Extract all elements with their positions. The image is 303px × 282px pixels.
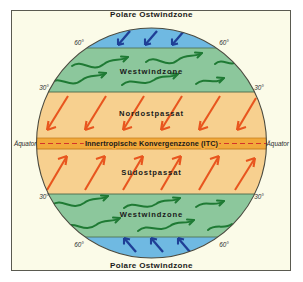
latitude-60-north-right: 60° bbox=[219, 39, 229, 46]
label-polar-north: Polare Ostwindzone bbox=[110, 10, 193, 19]
diagram-canvas: Polare Ostwindzone Westwindzone Nordostp… bbox=[0, 0, 303, 282]
latitude-60-south-right: 60° bbox=[219, 241, 229, 248]
label-westerly-north: Westwindzone bbox=[120, 67, 183, 76]
label-trade-north: Nordostpassat bbox=[119, 109, 184, 118]
latitude-30-north-left: 30° bbox=[39, 84, 49, 91]
wind-zone-diagram: Polare Ostwindzone Westwindzone Nordostp… bbox=[0, 0, 303, 282]
band-polar-north bbox=[20, 20, 283, 48]
label-trade-south: Südostpassat bbox=[121, 168, 182, 177]
latitude-30-north-right: 30° bbox=[254, 84, 264, 91]
label-westerly-south: Westwindzone bbox=[120, 210, 183, 219]
latitude-60-south-left: 60° bbox=[74, 241, 84, 248]
label-polar-south: Polare Ostwindzone bbox=[110, 261, 193, 270]
latitude-30-south-left: 30° bbox=[39, 193, 49, 200]
latitude-30-south-right: 30° bbox=[254, 193, 264, 200]
equator-label-left: Äquator bbox=[13, 140, 37, 148]
equator-label-right: Äquator bbox=[266, 140, 290, 148]
latitude-60-north-left: 60° bbox=[74, 39, 84, 46]
label-itc: Innertropische Konvergenzzone (ITC) bbox=[85, 139, 219, 148]
